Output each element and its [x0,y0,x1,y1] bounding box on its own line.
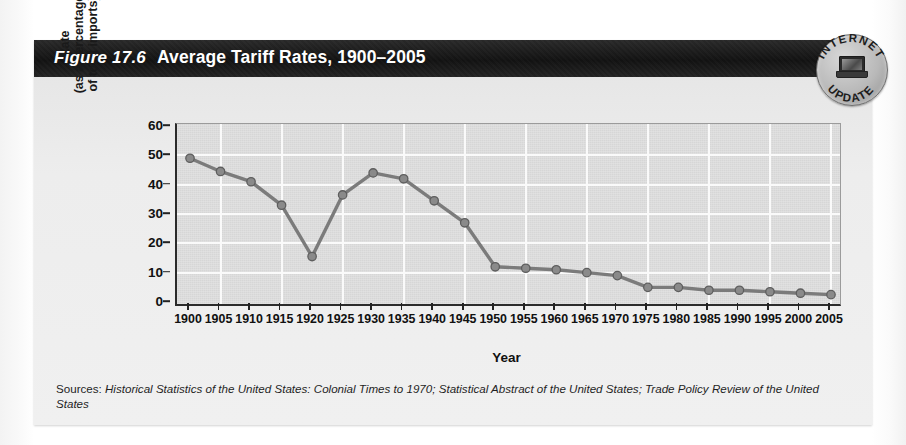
x-tick-label: 1920 [296,312,324,326]
x-tick-label: 1940 [418,312,446,326]
data-point-marker [674,283,682,291]
data-point-marker [735,286,743,294]
plot-canvas [175,123,841,306]
x-tick-label: 1950 [479,312,507,326]
figure-card: Figure 17.6Average Tariff Rates, 1900–20… [34,40,872,425]
data-point-marker [247,178,255,186]
laptop-base [836,71,868,78]
x-tick-label: 1945 [449,312,477,326]
x-tick-label: 1915 [266,312,294,326]
x-tick-label: 1905 [205,312,233,326]
laptop-icon [836,56,866,80]
data-point-marker [796,289,804,297]
y-tick-mark [163,300,170,302]
x-tick-label: 1900 [174,312,202,326]
y-tick-mark [163,183,170,185]
data-point-marker [644,283,652,291]
x-tick-mark [767,303,769,310]
x-tick-mark [370,303,372,310]
x-tick-mark [218,303,220,310]
y-tick-label: 0 [155,294,163,309]
x-tick-mark [462,303,464,310]
x-axis-ticks: 1900190519101915192019251930193519401945… [175,303,838,333]
x-tick-label: 1990 [724,312,752,326]
svg-text:UPDATE: UPDATE [826,83,877,105]
y-tick-mark [163,124,170,126]
data-point-marker [491,263,499,271]
figure-header-text: Figure 17.6Average Tariff Rates, 1900–20… [54,47,426,68]
y-tick-label: 60 [148,118,163,133]
y-tick-mark [163,242,170,244]
series-line [190,158,831,294]
y-tick-mark [163,154,170,156]
data-point-marker [186,154,194,162]
data-point-marker [308,252,316,260]
data-point-marker [522,264,530,272]
internet-update-badge[interactable]: INTERNET UPDATE [810,30,892,110]
x-tick-mark [309,303,311,310]
x-tick-label: 1960 [540,312,568,326]
x-tick-mark [615,303,617,310]
figure-header-band: Figure 17.6Average Tariff Rates, 1900–20… [34,40,872,77]
x-tick-mark [431,303,433,310]
y-tick-label: 30 [148,206,163,221]
data-point-marker [369,169,377,177]
x-tick-label: 2005 [815,312,843,326]
data-point-marker [216,167,224,175]
plot-wrapper: 0102030405060 19001905191019151920192519… [175,123,845,309]
sources-text: Historical Statistics of the United Stat… [56,382,819,410]
x-tick-label: 1995 [754,312,782,326]
y-tick-label: 20 [148,235,163,250]
x-tick-label: 1930 [357,312,385,326]
data-point-marker [705,286,713,294]
x-tick-mark [828,303,830,310]
x-tick-mark [279,303,281,310]
x-tick-mark [798,303,800,310]
x-axis-label: Year [175,350,838,365]
y-tick-label: 40 [148,176,163,191]
x-tick-label: 1965 [571,312,599,326]
y-tick-label: 10 [148,264,163,279]
x-tick-label: 1975 [632,312,660,326]
x-tick-mark [187,303,189,310]
data-point-marker [583,268,591,276]
y-tick-mark [163,212,170,214]
y-tick-label: 50 [148,147,163,162]
figure-number: Figure 17.6 [54,48,146,67]
x-tick-mark [523,303,525,310]
data-point-marker [613,271,621,279]
x-tick-mark [553,303,555,310]
x-tick-label: 1910 [235,312,263,326]
tariff-rate-series [177,124,840,304]
x-tick-mark [401,303,403,310]
data-point-marker [338,191,346,199]
x-tick-label: 1980 [663,312,691,326]
sources-label: Sources: [56,382,105,395]
x-tick-label: 1970 [602,312,630,326]
x-tick-mark [248,303,250,310]
x-tick-label: 1955 [510,312,538,326]
figure-title: Average Tariff Rates, 1900–2005 [157,47,426,67]
data-point-marker [766,288,774,296]
x-tick-mark [645,303,647,310]
x-tick-mark [706,303,708,310]
y-tick-mark [163,271,170,273]
x-tick-mark [340,303,342,310]
data-point-marker [277,201,285,209]
x-tick-mark [584,303,586,310]
data-point-marker [552,266,560,274]
chart-area: Rate (as a percentage of total imports) … [34,77,872,379]
data-point-marker [827,290,835,298]
data-point-marker [399,175,407,183]
x-tick-label: 1935 [388,312,416,326]
y-axis-ticks: 0102030405060 [129,123,169,309]
x-tick-mark [737,303,739,310]
sources-note: Sources: Historical Statistics of the Un… [56,382,846,411]
x-tick-label: 1925 [327,312,355,326]
x-tick-label: 2000 [785,312,813,326]
data-point-marker [430,197,438,205]
x-tick-mark [676,303,678,310]
x-tick-mark [492,303,494,310]
x-tick-label: 1985 [693,312,721,326]
data-point-marker [461,219,469,227]
